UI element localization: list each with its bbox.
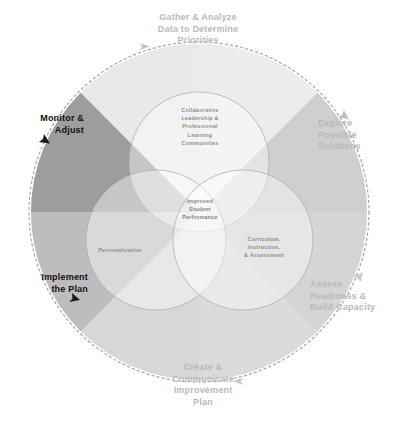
cycle-step-label-create-communicate: Create & Communicate Improvement Plan — [128, 362, 278, 408]
venn-label-curriculum-instruction-assessment: Curriculum, Instruction, & Assessment — [218, 235, 310, 260]
venn-label-personalization: Personalization — [72, 246, 168, 254]
cycle-step-label-monitor-adjust: Monitor & Adjust — [2, 113, 84, 136]
cycle-step-label-gather-analyze: Gather & Analyze Data to Determine Prior… — [118, 12, 278, 47]
venn-label-collaborative-leadership: Collaborative Leadership & Professional … — [152, 106, 248, 147]
diagram-canvas: Gather & Analyze Data to Determine Prior… — [0, 0, 398, 421]
cycle-step-label-explore-solutions: Explore Possible Solutions — [318, 118, 396, 153]
venn-label-improved-student-performance: Improved Student Performance — [155, 197, 245, 222]
cycle-step-label-implement-plan: Implement the Plan — [2, 272, 88, 295]
cycle-step-label-assess-readiness: Assess Readiness & Build Capacity — [310, 279, 396, 314]
